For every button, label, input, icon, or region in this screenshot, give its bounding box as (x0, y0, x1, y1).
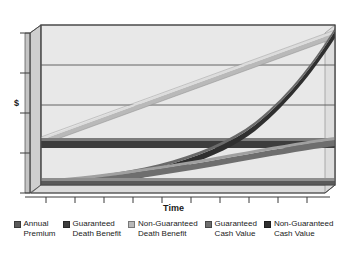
legend-swatch-icon (264, 221, 271, 228)
chart-plot-svg (0, 0, 347, 255)
legend-item-label: Non-Guaranteed Cash Value (274, 219, 334, 239)
legend-swatch-icon (63, 221, 70, 228)
chart-legend: Annual Premium Guaranteed Death Benefit … (0, 219, 347, 239)
x-axis-label: Time (0, 203, 347, 213)
legend-swatch-icon (14, 221, 21, 228)
legend-item-annual-premium[interactable]: Annual Premium (14, 219, 56, 239)
legend-item-guaranteed-death-benefit[interactable]: Guaranteed Death Benefit (63, 219, 121, 239)
legend-item-non-guaranteed-death-benefit[interactable]: Non-Guaranteed Death Benefit (128, 219, 198, 239)
chart-floor (31, 185, 335, 193)
legend-item-guaranteed-cash-value[interactable]: Guaranteed Cash Value (205, 219, 257, 239)
chart-container: $ Time Annual Premium Guaranteed Death B… (0, 0, 347, 255)
y-axis-label: $ (14, 98, 19, 108)
legend-item-label: Annual Premium (24, 219, 56, 239)
legend-item-label: Guaranteed Cash Value (215, 219, 257, 239)
legend-swatch-icon (128, 221, 135, 228)
legend-item-label: Non-Guaranteed Death Benefit (138, 219, 198, 239)
legend-item-non-guaranteed-cash-value[interactable]: Non-Guaranteed Cash Value (264, 219, 334, 239)
chart-left-wall (30, 25, 41, 193)
legend-swatch-icon (205, 221, 212, 228)
legend-item-label: Guaranteed Death Benefit (73, 219, 121, 239)
